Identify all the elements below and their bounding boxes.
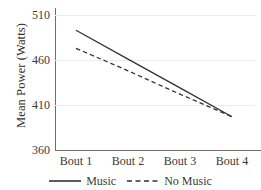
legend-item-music: Music (49, 175, 116, 187)
legend-label-music: Music (86, 175, 116, 187)
chart-container: Mean Power (Watts) 510 460 410 360 Bout … (0, 0, 261, 190)
legend-dashed-line-icon (127, 177, 159, 185)
x-axis-tick-labels: Bout 1 Bout 2 Bout 3 Bout 4 (55, 155, 261, 171)
x-tick-label-bout-1: Bout 1 (48, 155, 104, 167)
series-line-no-music (76, 48, 232, 116)
y-tick-label-360: 360 (16, 144, 50, 156)
y-tick-label-510: 510 (16, 9, 50, 21)
chart-legend: Music No Music (0, 172, 261, 190)
plot-area (55, 15, 255, 150)
x-axis-line (55, 150, 261, 151)
y-axis-tick-labels: 510 460 410 360 (14, 0, 50, 190)
legend-solid-line-icon (49, 177, 81, 185)
x-tick-label-bout-3: Bout 3 (152, 155, 208, 167)
y-tick-label-460: 460 (16, 54, 50, 66)
x-tick-label-bout-4: Bout 4 (204, 155, 260, 167)
y-tick-label-410: 410 (16, 99, 50, 111)
legend-item-no-music: No Music (127, 175, 212, 187)
series-line-music (76, 30, 232, 116)
series-layer (55, 15, 255, 150)
legend-label-no-music: No Music (164, 175, 212, 187)
x-tick-label-bout-2: Bout 2 (100, 155, 156, 167)
